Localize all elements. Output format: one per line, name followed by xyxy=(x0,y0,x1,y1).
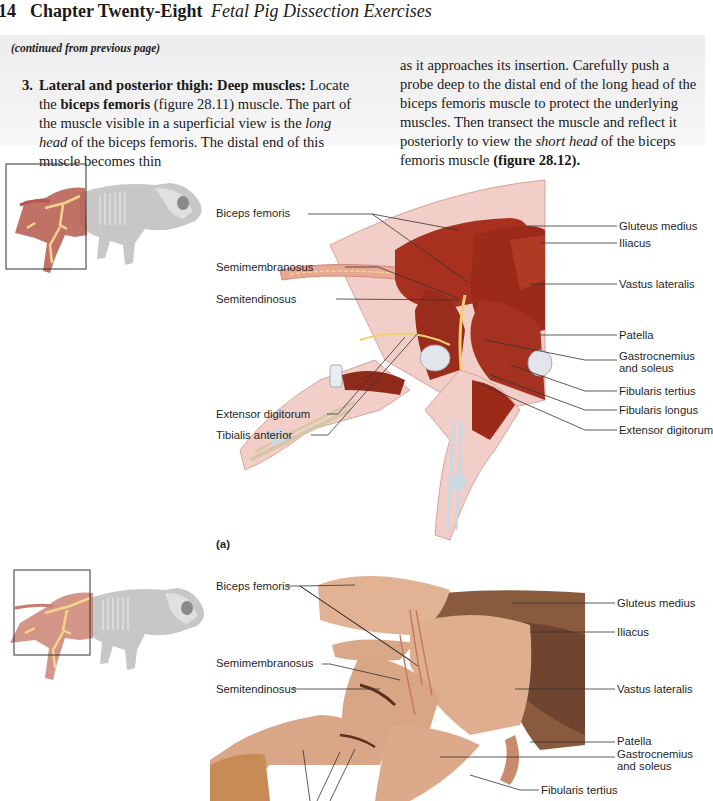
chapter-subtitle: Fetal Pig Dissection Exercises xyxy=(211,1,432,21)
page-header: 14 Chapter Twenty-Eight Fetal Pig Dissec… xyxy=(0,0,705,28)
step-heading: Lateral and posterior thigh: Deep muscle… xyxy=(39,77,306,93)
term-biceps-femoris: biceps femoris xyxy=(60,96,150,112)
chapter-name: Chapter Twenty-Eight xyxy=(30,1,203,21)
label-extensor-digitorum-right: Extensor digitorum xyxy=(619,424,713,437)
label-semitendinosus: Semitendinosus xyxy=(216,293,296,306)
label-biceps-femoris: Biceps femoris xyxy=(216,207,290,220)
label-patella: Patella xyxy=(619,329,654,342)
label-iliacus: Iliacus xyxy=(619,237,651,250)
page-number: 14 xyxy=(0,0,16,22)
pig-skeleton-icon xyxy=(5,163,220,278)
label-tibialis-anterior: Tibialis anterior xyxy=(216,429,292,442)
label-fibularis-longus: Fibularis longus xyxy=(619,404,698,417)
label-fibularis-tertius-b: Fibularis tertius xyxy=(541,784,618,797)
label-iliacus-b: Iliacus xyxy=(617,626,649,639)
label-vastus-lateralis: Vastus lateralis xyxy=(619,278,695,291)
orientation-thumbnail-b xyxy=(5,568,220,683)
label-semimembranosus-b: Semimembranosus xyxy=(216,657,313,670)
label-biceps-femoris-b: Biceps femoris xyxy=(216,580,290,593)
step-number: 3. xyxy=(22,76,33,95)
label-fibularis-tertius: Fibularis tertius xyxy=(619,385,696,398)
panel-label-a: (a) xyxy=(216,538,230,550)
label-extensor-digitorum: Extensor digitorum xyxy=(216,408,310,421)
label-vastus-lateralis-b: Vastus lateralis xyxy=(617,683,693,696)
label-patella-b: Patella xyxy=(617,735,652,748)
continued-note: (continued from previous page) xyxy=(11,42,160,54)
pig-skeleton-icon xyxy=(5,568,220,683)
label-gluteus-medius-b: Gluteus medius xyxy=(617,597,696,610)
label-gluteus-medius: Gluteus medius xyxy=(619,220,698,233)
orientation-thumbnail-a xyxy=(5,163,220,278)
label-semimembranosus: Semimembranosus xyxy=(216,261,313,274)
label-and-soleus: and soleus xyxy=(619,362,674,375)
label-semitendinosus-b: Semitendinosus xyxy=(216,683,296,696)
chapter-title: Chapter Twenty-Eight Fetal Pig Dissectio… xyxy=(30,0,432,22)
label-and-soleus-b: and soleus xyxy=(617,760,672,773)
